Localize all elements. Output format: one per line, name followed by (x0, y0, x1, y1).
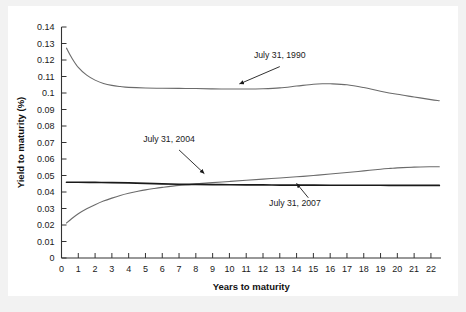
x-tick-label-18: 18 (359, 264, 369, 274)
x-tick-labels: 012345678910111213141516171819202122 (59, 264, 436, 274)
y-axis-title: Yield to maturity (%) (15, 97, 26, 189)
x-tick-label-11: 11 (242, 264, 251, 274)
y-tick-labels: 00.010.020.030.040.050.060.070.080.090.1… (37, 22, 55, 263)
y-tick-label-4: 0.04 (37, 187, 55, 197)
series-line-1 (67, 48, 440, 101)
series-line-3 (67, 182, 440, 185)
chart-figure: 012345678910111213141516171819202122 00.… (0, 0, 466, 312)
annotation-label-1: July 31, 1990 (254, 50, 306, 60)
x-tick-label-3: 3 (109, 264, 114, 274)
annotation-arrow-2 (179, 150, 204, 174)
y-tick-label-9: 0.09 (37, 105, 55, 115)
y-tick-label-12: 0.12 (37, 55, 55, 65)
x-tick-label-1: 1 (76, 264, 81, 274)
y-tick-label-5: 0.05 (37, 171, 55, 181)
x-tick-label-19: 19 (376, 264, 386, 274)
x-tick-label-20: 20 (392, 264, 402, 274)
x-tick-label-7: 7 (177, 264, 182, 274)
y-tick-label-1: 0.01 (37, 237, 55, 247)
y-tick-label-3: 0.03 (37, 204, 55, 214)
x-tick-label-13: 13 (275, 264, 285, 274)
x-tick-label-6: 6 (160, 264, 165, 274)
annotation-label-2: July 31, 2004 (143, 134, 195, 144)
x-tick-label-15: 15 (308, 264, 318, 274)
x-tick-label-5: 5 (143, 264, 148, 274)
x-tick-label-14: 14 (292, 264, 302, 274)
axis-titles: Years to maturityYield to maturity (%) (15, 97, 291, 292)
x-tick-label-8: 8 (193, 264, 198, 274)
x-tick-label-4: 4 (126, 264, 131, 274)
y-tick-label-11: 0.11 (38, 72, 55, 82)
x-tick-label-16: 16 (325, 264, 335, 274)
annotation-label-3: July 31, 2007 (269, 198, 321, 208)
y-tick-label-0: 0 (49, 253, 54, 263)
y-tick-label-7: 0.07 (37, 138, 55, 148)
annotation-arrow-1 (239, 67, 279, 84)
x-tick-label-2: 2 (93, 264, 98, 274)
series-line-2 (67, 167, 440, 223)
yield-curve-chart: 012345678910111213141516171819202122 00.… (0, 0, 466, 312)
x-tick-label-22: 22 (426, 264, 436, 274)
x-tick-label-0: 0 (59, 264, 64, 274)
y-tick-label-6: 0.06 (37, 154, 55, 164)
x-axis-title: Years to maturity (213, 281, 291, 292)
y-tick-label-14: 0.14 (37, 22, 55, 32)
tick-marks (62, 27, 431, 258)
y-tick-label-8: 0.08 (37, 121, 55, 131)
x-tick-label-12: 12 (258, 264, 268, 274)
y-tick-label-10: 0.1 (42, 88, 55, 98)
data-series (67, 48, 440, 223)
y-tick-label-13: 0.13 (37, 39, 55, 49)
y-tick-label-2: 0.02 (37, 220, 55, 230)
x-tick-label-17: 17 (342, 264, 352, 274)
axes (62, 27, 442, 258)
x-tick-label-10: 10 (224, 264, 234, 274)
x-tick-label-21: 21 (409, 264, 419, 274)
x-tick-label-9: 9 (210, 264, 215, 274)
